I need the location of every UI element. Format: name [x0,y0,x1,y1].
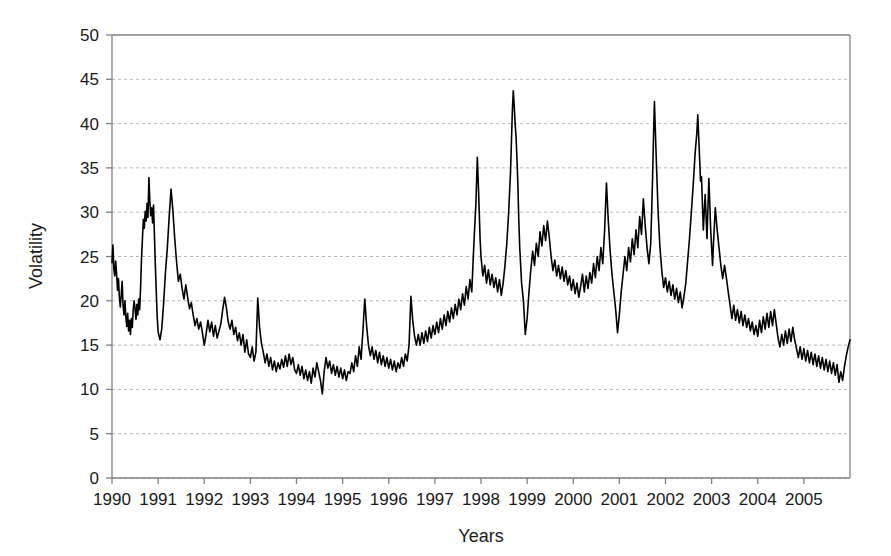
y-tick-label-50: 50 [80,26,99,45]
x-axis-title: Years [458,526,503,546]
x-tick-label-1997: 1997 [416,490,454,509]
x-tick-label-1996: 1996 [370,490,408,509]
x-tick-label-2004: 2004 [739,490,777,509]
y-tick-label-15: 15 [80,336,99,355]
chart-background [0,0,891,556]
x-tick-label-2003: 2003 [693,490,731,509]
x-tick-label-1994: 1994 [278,490,316,509]
y-tick-label-25: 25 [80,248,99,267]
y-tick-label-5: 5 [90,425,99,444]
x-tick-label-1990: 1990 [93,490,131,509]
x-tick-label-2000: 2000 [554,490,592,509]
y-tick-label-10: 10 [80,380,99,399]
x-tick-label-2002: 2002 [647,490,685,509]
x-tick-label-2001: 2001 [600,490,638,509]
y-tick-label-20: 20 [80,292,99,311]
y-tick-label-0: 0 [90,469,99,488]
x-tick-label-1992: 1992 [185,490,223,509]
y-tick-label-45: 45 [80,70,99,89]
y-tick-label-35: 35 [80,159,99,178]
y-tick-label-40: 40 [80,115,99,134]
x-tick-label-1995: 1995 [324,490,362,509]
chart-canvas: 05101520253035404550 1990199119921993199… [0,0,891,556]
x-tick-label-1993: 1993 [231,490,269,509]
y-axis-title: Volatility [26,223,46,289]
volatility-chart: 05101520253035404550 1990199119921993199… [0,0,891,556]
x-tick-label-1999: 1999 [508,490,546,509]
x-tick-label-1998: 1998 [462,490,500,509]
x-tick-label-2005: 2005 [785,490,823,509]
y-tick-label-30: 30 [80,203,99,222]
x-tick-label-1991: 1991 [139,490,177,509]
